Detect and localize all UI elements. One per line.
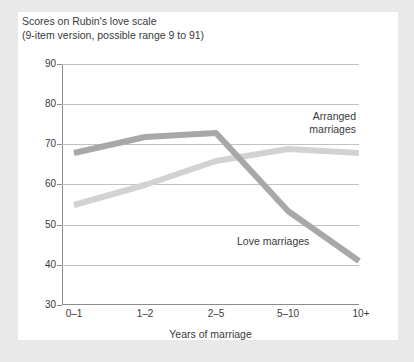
- xtick-label-2-5: 2–5: [208, 308, 225, 319]
- series-annotation-love-marriages: Love marriages: [237, 235, 309, 248]
- chart-figure: Scores on Rubin's love scale (9-item ver…: [0, 0, 414, 362]
- xtick-label-0-1: 0–1: [66, 308, 83, 319]
- xtick-label-5-10: 5–10: [277, 308, 299, 319]
- series-annotation-arranged-line-2: marriages: [309, 123, 356, 135]
- series-line-arranged-marriages: [74, 149, 359, 205]
- x-axis-title: Years of marriage: [62, 328, 359, 340]
- series-annotation-arranged-marriages: Arrangedmarriages: [278, 110, 356, 136]
- plot-wrapper: 90 80 70 60 50 40 30 0–1 1–2 2–5 5–10 10…: [0, 0, 414, 362]
- series-annotation-arranged-line-1: Arranged: [313, 110, 356, 122]
- xtick-label-1-2: 1–2: [137, 308, 154, 319]
- xtick-label-10-plus: 10+: [353, 308, 370, 319]
